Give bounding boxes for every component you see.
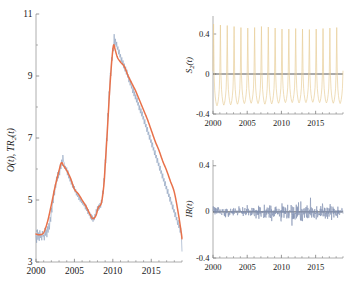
- seasonal-panel-x-tick-label: 2015: [307, 118, 324, 128]
- main-panel-y-tick-label: 5: [28, 195, 33, 205]
- irregular-panel-x-tick-label: 2010: [273, 262, 290, 272]
- seasonal-panel-y-tick-label: 0: [205, 69, 209, 79]
- seasonal-panel-x-tick-label: 2000: [205, 118, 222, 128]
- y-label-part-tail: (t): [6, 128, 17, 137]
- main-panel-y-axis-label: O(t), TR2(t): [6, 128, 17, 172]
- main-panel-x-tick-label: 2005: [65, 266, 84, 276]
- main-trend-series: [36, 45, 182, 239]
- irregular-panel-y-tick-label: -0.4: [196, 253, 210, 263]
- irregular-panel-x-tick-label: 2015: [307, 262, 324, 272]
- irregular-panel-x-tick-label: 2000: [205, 262, 222, 272]
- irregular-panel: 2000200520102015-0.400.4IR(t): [184, 160, 343, 272]
- irregular-panel-x-tick-label: 2005: [239, 262, 256, 272]
- main-y-label-text: O(t), TR2(t): [6, 128, 17, 172]
- seasonal-panel-y-tick-label: 0.4: [199, 29, 210, 39]
- main-panel-y-tick-label: 7: [28, 133, 33, 143]
- main-panel-y-tick-label: 9: [28, 71, 33, 81]
- seasonal-label-tail: (t): [184, 57, 194, 66]
- main-panel-y-tick-label: 11: [23, 9, 32, 19]
- irregular-panel-y-tick-label: 0: [205, 206, 209, 216]
- seasonal-panel-x-tick-label: 2005: [239, 118, 256, 128]
- main-panel-x-tick-label: 2000: [27, 266, 46, 276]
- main-panel-y-tick-label: 3: [28, 257, 33, 267]
- seasonal-panel-x-tick-label: 2010: [273, 118, 290, 128]
- seasonal-panel-y-axis-label: S2(t): [184, 57, 195, 73]
- main-panel: 2000200520102015357911O(t), TR2(t): [6, 9, 182, 276]
- main-observed-series: [36, 34, 182, 251]
- seasonal-y-label-text: S2(t): [184, 57, 195, 73]
- irregular-y-label-text: IR(t): [184, 201, 194, 219]
- seasonal-panel: 2000200520102015-0.400.4S2(t): [184, 16, 343, 128]
- irregular-panel-y-axis-label: IR(t): [184, 201, 194, 219]
- decomposition-svg: 2000200520102015357911O(t), TR2(t)200020…: [0, 0, 350, 287]
- y-label-part-observed: O(t), TR: [6, 140, 17, 172]
- main-panel-x-tick-label: 2015: [142, 266, 161, 276]
- figure-decomposition-panels: 2000200520102015357911O(t), TR2(t)200020…: [0, 0, 350, 287]
- main-panel-x-tick-label: 2010: [103, 266, 122, 276]
- irregular-panel-y-tick-label: 0.4: [199, 160, 210, 170]
- seasonal-panel-y-tick-label: -0.4: [196, 109, 210, 119]
- irregular-series: [213, 198, 343, 226]
- seasonal-series: [213, 24, 343, 106]
